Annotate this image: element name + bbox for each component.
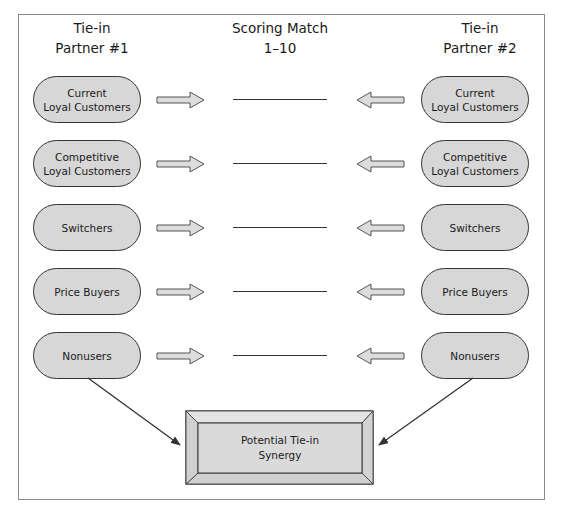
arrow-left-icon [357, 284, 404, 300]
synergy-label: Potential Tie-in Synergy [198, 423, 362, 473]
arrow-left-icon [357, 348, 404, 364]
arrow-right-icon [157, 92, 204, 108]
arrow-left-icon [357, 220, 404, 236]
arrow-right-icon [157, 284, 204, 300]
arrow-left-icon [357, 92, 404, 108]
arrow-right-icon [157, 348, 204, 364]
connector-arrow-left [88, 378, 180, 445]
arrow-right-icon [157, 220, 204, 236]
arrow-right-icon [157, 156, 204, 172]
connector-arrow-right [379, 378, 473, 445]
arrow-left-icon [357, 156, 404, 172]
